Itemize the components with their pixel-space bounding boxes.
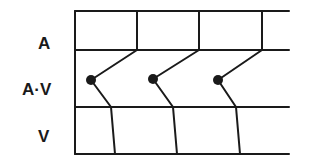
conduction-path (91, 50, 137, 154)
conduction-path (153, 50, 199, 154)
junctional-origin-dot (86, 75, 96, 85)
beat-2 (148, 11, 199, 154)
beat-3 (213, 11, 262, 154)
conduction-path (218, 50, 262, 154)
junctional-origin-dot (213, 75, 223, 85)
row-label-atrium: A (38, 35, 50, 52)
row-label-ventricle: V (38, 128, 49, 145)
junctional-origin-dot (148, 74, 158, 84)
ladder-diagram: A A·V V (0, 0, 310, 168)
beat-1 (86, 11, 137, 154)
grid-lines (75, 11, 289, 154)
beat-paths (86, 11, 262, 154)
row-label-av-junction: A·V (22, 81, 51, 98)
